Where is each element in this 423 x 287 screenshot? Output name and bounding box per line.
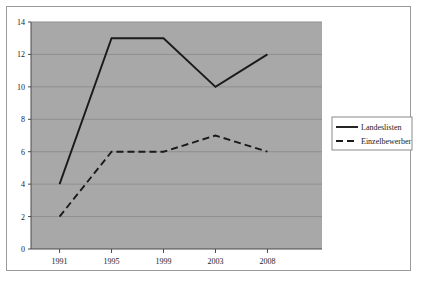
legend-label-einzelbewerber: Einzelbewerber bbox=[361, 137, 412, 146]
plot-area-background bbox=[31, 22, 322, 249]
y-axis-ticks: 02468101214 bbox=[17, 18, 31, 254]
y-tick-label-8: 8 bbox=[21, 115, 25, 124]
legend-label-landeslisten: Landeslisten bbox=[361, 123, 401, 132]
x-tick-label-2003: 2003 bbox=[207, 257, 223, 266]
x-tick-label-1995: 1995 bbox=[104, 257, 120, 266]
y-tick-label-4: 4 bbox=[21, 180, 25, 189]
x-tick-label-2008: 2008 bbox=[259, 257, 275, 266]
y-tick-label-12: 12 bbox=[17, 50, 25, 59]
line-chart: 02468101214 19911995199920032008 Landesl… bbox=[0, 0, 423, 287]
y-tick-label-10: 10 bbox=[17, 83, 25, 92]
chart-legend: LandeslistenEinzelbewerber bbox=[332, 117, 412, 150]
y-tick-label-6: 6 bbox=[21, 148, 25, 157]
chart-figure: 02468101214 19911995199920032008 Landesl… bbox=[0, 0, 423, 287]
x-tick-label-1999: 1999 bbox=[156, 257, 172, 266]
x-tick-label-1991: 1991 bbox=[52, 257, 68, 266]
y-tick-label-2: 2 bbox=[21, 213, 25, 222]
y-tick-label-14: 14 bbox=[17, 18, 25, 27]
y-tick-label-0: 0 bbox=[21, 245, 25, 254]
x-axis-ticks: 19911995199920032008 bbox=[52, 249, 276, 266]
